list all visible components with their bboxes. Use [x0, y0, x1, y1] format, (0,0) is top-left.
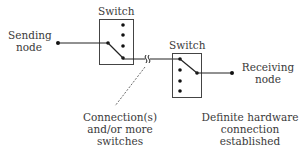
hardware-note: Definite hardware connection established — [200, 111, 300, 147]
hardware-note-line3: established — [200, 135, 300, 147]
switch-2-contact — [178, 89, 182, 93]
hardware-note-line1: Definite hardware — [200, 111, 300, 123]
connection-pointer — [115, 67, 145, 106]
switch-2-arm — [180, 59, 197, 73]
switch-1-contact — [121, 23, 125, 27]
switch-1-arm — [108, 43, 123, 58]
sending-node-line1: Sending — [8, 29, 50, 41]
sending-node-label: Sending node — [8, 29, 50, 53]
receiving-node-label: Receiving node — [240, 61, 296, 85]
switch-1-label: Switch — [98, 5, 134, 17]
receiving-node-dot — [230, 71, 234, 75]
break-mark-icon — [145, 55, 150, 63]
receiving-node-line1: Receiving — [240, 61, 296, 73]
connection-note: Connection(s) and/or more switches — [80, 111, 160, 147]
switch-2-contact — [178, 79, 182, 83]
receiving-node-line2: node — [240, 73, 296, 85]
switch-1-contact — [121, 44, 125, 48]
switch-2-box — [173, 54, 202, 98]
switch-2-contact — [178, 68, 182, 72]
connection-note-line2: and/or more — [80, 123, 160, 135]
connection-note-line1: Connection(s) — [80, 111, 160, 123]
hardware-note-line2: connection — [200, 123, 300, 135]
switch-1-contact — [121, 33, 125, 37]
connection-note-line3: switches — [80, 135, 160, 147]
switch-2-label: Switch — [169, 39, 205, 51]
switch-1-box — [100, 20, 134, 65]
sending-node-line2: node — [8, 41, 50, 53]
